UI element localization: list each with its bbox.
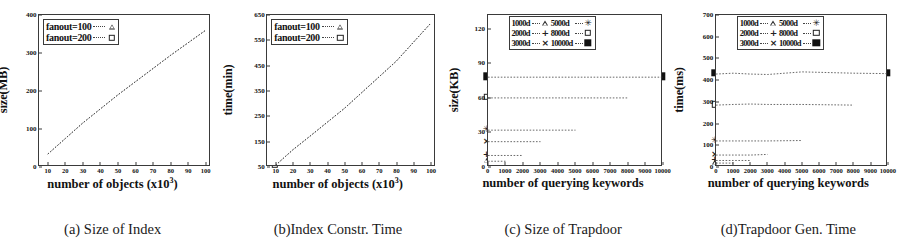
x-tick-label: 90 — [185, 167, 192, 174]
legend-line — [575, 23, 583, 24]
marker-star-icon: ✳ — [584, 19, 592, 28]
legend-line — [803, 23, 811, 24]
x-tick-label: 0 — [714, 167, 717, 174]
chart-panel-c: size(KB)+++××××✳✳✳✳✳03060901200100020003… — [451, 0, 676, 242]
legend-b: fanout=100fanout=200 — [271, 19, 347, 45]
legend-marker: × — [769, 39, 778, 48]
x-tick-label: 4000 — [551, 167, 564, 174]
y-tick-label: 120 — [475, 25, 486, 33]
y-tick-label: 0 — [33, 163, 37, 171]
legend-entry — [574, 29, 593, 38]
x-tick-label: 5000 — [569, 167, 582, 174]
legend-label: 10000d — [779, 38, 801, 48]
x-tick-label: 20 — [62, 167, 69, 174]
y-axis-label-d: time(ms) — [672, 14, 690, 166]
y-tick-label: 450 — [254, 62, 265, 70]
y-tick-label: 200 — [703, 120, 714, 128]
series-line-fanout=100 — [48, 30, 206, 154]
x-tick-label: 4000 — [778, 167, 791, 174]
x-tick-label: 60 — [359, 167, 366, 174]
legend-label: fanout=100 — [274, 21, 319, 32]
panel-caption-c: (c) Size of Trapdoor — [451, 221, 676, 238]
legend-marker — [812, 39, 821, 48]
panel-caption-b: (b)Index Constr. Time — [225, 221, 450, 238]
legend-line — [803, 33, 811, 34]
legend-marker — [584, 29, 593, 38]
legend-entry: × — [531, 39, 550, 48]
x-tick-mark — [662, 162, 663, 165]
y-tick-label: 400 — [26, 11, 37, 19]
x-tick-label: 1000 — [726, 167, 739, 174]
legend-entry — [574, 39, 593, 48]
y-tick-label: 700 — [703, 11, 714, 19]
marker-triangle-icon — [542, 21, 548, 26]
legend-marker — [769, 19, 778, 28]
legend-line — [532, 43, 540, 44]
legend-entry — [759, 19, 778, 28]
x-tick-label: 80 — [393, 167, 400, 174]
x-tick-label: 7000 — [604, 167, 617, 174]
legend-line — [575, 43, 583, 44]
y-tick-label: 150 — [254, 138, 265, 146]
series-line-3000d — [716, 154, 768, 155]
legend-entry: + — [759, 29, 778, 38]
legend-line — [532, 33, 540, 34]
legend-a: fanout=100fanout=200 — [43, 19, 119, 45]
marker-square-filled-icon — [584, 39, 591, 46]
x-tick-label: 7000 — [830, 167, 843, 174]
legend-entry: fanout=200 — [46, 32, 116, 43]
x-axis-label-c: number of querying keywords — [451, 176, 676, 191]
marker-plus-icon: + — [541, 29, 549, 38]
x-tick-label: 40 — [324, 167, 331, 174]
legend-line — [760, 23, 768, 24]
legend-entry: fanout=200 — [274, 32, 344, 43]
legend-marker: ✳ — [584, 19, 593, 28]
x-axis-label-a: number of objects (x103) — [0, 176, 225, 192]
x-tick-label: 2000 — [516, 167, 529, 174]
x-tick-label: 0 — [486, 167, 489, 174]
marker-square-filled-icon — [813, 39, 820, 46]
legend-label: 3000d — [512, 38, 530, 48]
x-axis-label-d: number of querying keywords — [676, 176, 901, 191]
plot-area-b: time(min)5015025035045055065010203040506… — [225, 0, 450, 200]
y-axis-label-c: size(KB) — [447, 14, 465, 166]
y-tick-label: 90 — [478, 59, 485, 67]
x-tick-label: 8000 — [621, 167, 634, 174]
x-axis-label-b: number of objects (x103) — [225, 176, 450, 192]
x-tick-label: 80 — [167, 167, 174, 174]
series-line-10000d — [716, 72, 888, 75]
y-tick-label: 0 — [710, 163, 714, 171]
y-tick-label: 60 — [478, 94, 485, 102]
legend-line — [575, 33, 583, 34]
x-tick-label: 9000 — [639, 167, 652, 174]
legend-line — [93, 26, 105, 27]
y-tick-label: 200 — [26, 87, 37, 95]
legend-label: 1000d — [740, 18, 758, 28]
y-tick-label: 550 — [254, 36, 265, 44]
marker-square-open-icon — [337, 34, 343, 40]
x-tick-label: 1000 — [499, 167, 512, 174]
legend-marker — [584, 39, 593, 48]
x-tick-label: 70 — [150, 167, 157, 174]
legend-label: fanout=100 — [46, 21, 91, 32]
x-tick-label: 50 — [342, 167, 349, 174]
legend-label: 2000d — [512, 28, 530, 38]
y-tick-label: 600 — [703, 33, 714, 41]
y-tick-label: 300 — [26, 49, 37, 57]
legend-marker: × — [541, 39, 550, 48]
x-tick-mark — [887, 162, 888, 165]
legend-line — [322, 26, 334, 27]
legend-entry — [802, 39, 821, 48]
legend-d: 1000d5000d✳2000d+8000d3000d×10000d — [737, 16, 824, 50]
legend-line — [532, 23, 540, 24]
legend-label: 5000d — [779, 18, 801, 28]
x-tick-label: 3000 — [761, 167, 774, 174]
y-tick-label: 500 — [703, 54, 714, 62]
legend-marker — [107, 22, 116, 31]
x-tick-label: 50 — [115, 167, 122, 174]
legend-marker: + — [541, 29, 550, 38]
marker-square-open-icon — [109, 34, 115, 40]
x-tick-label: 3000 — [534, 167, 547, 174]
chart-panel-b: time(min)5015025035045055065010203040506… — [225, 0, 450, 242]
legend-marker: ✳ — [812, 19, 821, 28]
